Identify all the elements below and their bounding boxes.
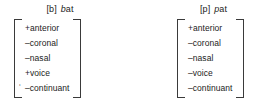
feature-row: ‘ –continuant	[25, 81, 70, 96]
feature-row: +voice	[25, 66, 70, 81]
feature-value: –nasal	[188, 51, 213, 66]
feature-list-p: +anterior –coronal –nasal –voice –contin…	[177, 19, 244, 98]
feature-row: –continuant	[188, 81, 233, 96]
feature-list-b: +anterior –coronal –nasal +voice ‘ –cont…	[14, 19, 81, 98]
feature-value: –voice	[188, 66, 213, 81]
feature-value: +voice	[25, 66, 50, 81]
segment-label-b: [b]	[46, 4, 56, 14]
feature-row: –nasal	[25, 51, 70, 66]
matrix-body-b: +anterior –coronal –nasal +voice ‘ –cont…	[14, 19, 81, 98]
feature-value: –continuant	[25, 81, 70, 96]
feature-value: –coronal	[188, 36, 221, 51]
matrix-header-p: [p]pat	[168, 0, 259, 16]
word-rest-b: at	[66, 4, 74, 14]
feature-value: +anterior	[25, 21, 59, 36]
feature-row: –voice	[188, 66, 233, 81]
feature-matrix-b: [b]bat +anterior –coronal –nasal +voice …	[8, 0, 112, 98]
feature-value: –coronal	[25, 36, 58, 51]
feature-value: –nasal	[25, 51, 50, 66]
feature-row: –coronal	[188, 36, 233, 51]
matrix-header-b: [b]bat	[8, 0, 112, 16]
feature-matrix-figure: [b]bat +anterior –coronal –nasal +voice …	[0, 0, 259, 108]
feature-matrix-p: [p]pat +anterior –coronal –nasal –voice …	[168, 0, 259, 98]
segment-label-p: [p]	[200, 4, 210, 14]
feature-row: +anterior	[25, 21, 70, 36]
stray-apostrophe-mark: ‘	[19, 82, 21, 92]
word-rest-p: at	[219, 4, 227, 14]
feature-value: +anterior	[188, 21, 222, 36]
feature-row: +anterior	[188, 21, 233, 36]
right-bracket-icon	[73, 19, 81, 98]
matrix-body-p: +anterior –coronal –nasal –voice –contin…	[177, 19, 244, 98]
left-bracket-icon	[177, 19, 185, 98]
right-bracket-icon	[236, 19, 244, 98]
feature-row: –coronal	[25, 36, 70, 51]
feature-value: –continuant	[188, 81, 233, 96]
feature-row: –nasal	[188, 51, 233, 66]
